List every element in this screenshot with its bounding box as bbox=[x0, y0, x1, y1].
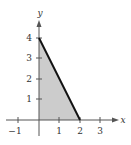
y-tick-label: 4 bbox=[26, 33, 32, 43]
x-tick-label: 2 bbox=[77, 126, 83, 136]
y-tick-label: 2 bbox=[26, 74, 32, 84]
y-tick-label: 1 bbox=[26, 94, 32, 104]
x-axis-arrow-icon bbox=[112, 118, 119, 123]
y-tick-label: 3 bbox=[26, 53, 32, 63]
x-tick-label: 1 bbox=[56, 126, 62, 136]
chart-canvas: −1 1 2 3 1 2 3 4 x y bbox=[0, 0, 131, 145]
x-tick-label: 3 bbox=[97, 126, 103, 136]
x-tick-label: −1 bbox=[8, 126, 21, 136]
y-axis-label: y bbox=[36, 8, 43, 18]
y-axis-arrow-icon bbox=[37, 20, 42, 27]
x-axis-label: x bbox=[120, 115, 125, 125]
